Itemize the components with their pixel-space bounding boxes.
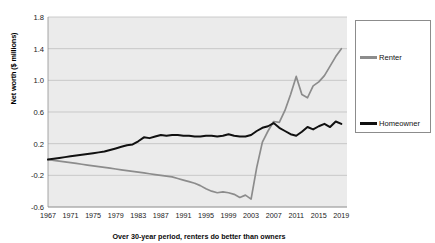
chart-legend: Renter Homeowner: [355, 20, 431, 133]
x-tick-label: 1979: [108, 211, 124, 220]
legend-label-homeowner: Homeowner: [379, 119, 420, 128]
x-tick-label: 2019: [333, 211, 349, 220]
x-tick-label: 2003: [243, 211, 259, 220]
legend-label-renter: Renter: [379, 53, 402, 62]
x-tick-label: 2007: [266, 211, 282, 220]
x-tick-label: 2011: [288, 211, 303, 220]
x-tick-label: 1967: [40, 211, 56, 220]
legend-swatch-renter: [360, 56, 377, 59]
x-tick-label: 1999: [221, 211, 237, 220]
legend-item-renter: Renter: [360, 53, 402, 62]
legend-item-homeowner: Homeowner: [360, 119, 420, 128]
x-tick-label: 1975: [85, 211, 101, 220]
x-tick-label: 1987: [153, 211, 169, 220]
x-tick-label: 1971: [63, 211, 79, 220]
x-tick-label: 1983: [130, 211, 146, 220]
net-worth-line-chart: Net worth ($ millions) 1.81.41.00.60.2-0…: [0, 0, 435, 243]
legend-swatch-homeowner: [360, 122, 377, 125]
chart-caption: Over 30-year period, renters do better t…: [48, 232, 350, 241]
x-tick-label: 1995: [198, 211, 214, 220]
x-tick-label: 1991: [175, 211, 191, 220]
x-tick-label: 2015: [311, 211, 327, 220]
